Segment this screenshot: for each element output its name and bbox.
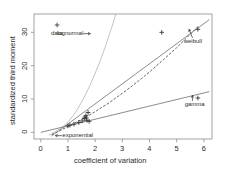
data-point-marker	[55, 23, 60, 28]
series-label-exponential: exponential	[62, 132, 93, 138]
y-axis-title: standardized third moment	[9, 36, 17, 125]
data-point-marker	[87, 119, 92, 124]
x-tick-label: 1	[66, 145, 70, 153]
x-axis-title: coefficient of variation	[74, 157, 146, 165]
x-tick-label: 2	[93, 145, 97, 153]
x-tick-label: 4	[147, 145, 151, 153]
x-tick-label: 5	[174, 145, 178, 153]
data-point-layer	[55, 23, 200, 128]
annotation-arrow-layer	[55, 29, 193, 137]
x-tick-label: 0	[39, 145, 43, 153]
y-tick-label: 10	[21, 94, 29, 104]
series-curve-upper-envelope	[52, 20, 210, 136]
series-label-gamma: gamma	[185, 101, 205, 107]
y-tick-label: 20	[21, 60, 29, 70]
y-tick-label: 0	[21, 127, 29, 137]
series-label-lognormal: lognormal	[57, 30, 83, 36]
x-tick-label: 6	[202, 145, 206, 153]
x-tick-label: 3	[120, 145, 124, 153]
series-label-weibull: weibull	[184, 38, 202, 44]
data-point-marker	[196, 96, 201, 101]
data-point-marker	[159, 30, 164, 35]
data-point-marker	[86, 110, 91, 115]
plot-canvas	[0, 0, 228, 172]
series-curve-weibull	[52, 26, 199, 135]
y-tick-label: 30	[21, 27, 29, 37]
chart-figure: 0123456 0102030 datalognormalweibullgamm…	[0, 0, 228, 172]
